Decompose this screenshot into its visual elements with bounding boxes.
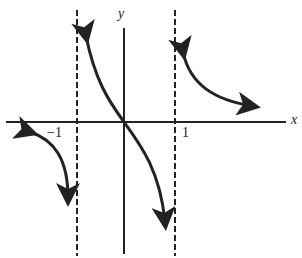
curve-left-branch: [30, 132, 68, 198]
curve-right-branch: [183, 52, 252, 106]
tick-label-one: 1: [182, 125, 189, 141]
x-axis-label: x: [291, 112, 297, 128]
curve-middle-branch: [86, 36, 165, 222]
tick-label-neg-one: −1: [47, 125, 62, 141]
y-axis-label: y: [118, 6, 124, 22]
graph-diagram: [0, 0, 302, 258]
